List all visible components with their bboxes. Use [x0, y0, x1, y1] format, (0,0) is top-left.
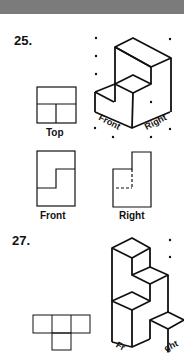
problem-25-top-view: [37, 87, 76, 123]
problem-25-front-view: [37, 151, 75, 206]
front-view-label: Front: [40, 210, 66, 221]
problem-27-top-view: [33, 315, 90, 350]
problem-27-isometric: [112, 238, 184, 352]
right-view-label: Right: [119, 210, 145, 221]
top-view-label: Top: [46, 127, 64, 138]
problem-27-grid-dots: [169, 239, 171, 258]
problem-25-right-view: [113, 152, 151, 207]
problem-27-number: 27.: [12, 233, 30, 248]
